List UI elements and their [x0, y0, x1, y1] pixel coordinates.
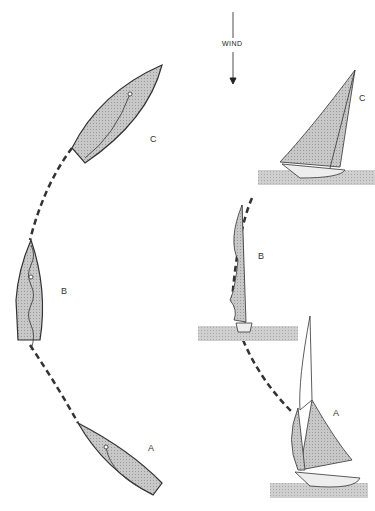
wind-arrow — [230, 12, 236, 84]
side-view-label-a: A — [333, 408, 339, 418]
side-view-label-c: C — [359, 93, 366, 103]
top-view-label-a: A — [148, 443, 154, 453]
diagram-graphic — [0, 0, 375, 511]
side-view — [198, 70, 375, 498]
tacking-diagram: WIND C B A C B A — [0, 0, 375, 511]
top-view-label-c: C — [150, 134, 157, 144]
wind-label: WIND — [222, 40, 243, 47]
top-view — [16, 65, 162, 495]
side-view-label-b: B — [258, 251, 264, 261]
top-view-label-b: B — [61, 286, 67, 296]
